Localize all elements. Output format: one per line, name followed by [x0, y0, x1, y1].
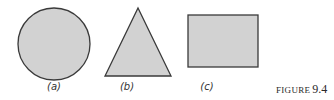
- figure-caption-word: FIGURE: [276, 85, 310, 95]
- figure-caption: FIGURE9.4: [276, 79, 327, 97]
- panel-label-b: (b): [112, 81, 142, 92]
- panel-label-c: (c): [192, 81, 222, 92]
- figure-caption-number: 9.4: [312, 82, 327, 96]
- panel-label-a: (a): [39, 81, 69, 92]
- circle-shape: [18, 8, 90, 80]
- triangle-shape: [105, 8, 171, 76]
- rectangle-shape: [188, 15, 258, 67]
